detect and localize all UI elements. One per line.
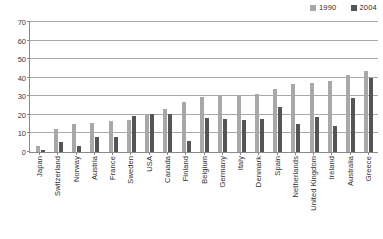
x-axis-labels: JapanSwitzerlandNorwayAustriaFranceSwede… bbox=[30, 156, 377, 236]
bar-2004[interactable] bbox=[223, 119, 227, 152]
x-label-cell: Finland bbox=[176, 156, 194, 236]
bar-1990[interactable] bbox=[237, 95, 241, 152]
x-label-cell: Greece bbox=[359, 156, 377, 236]
x-tick-label: Switzerland bbox=[53, 156, 62, 196]
bar-group bbox=[104, 22, 122, 152]
x-tick-mark bbox=[94, 152, 95, 155]
x-tick-label: Norway bbox=[71, 156, 80, 182]
bar-2004[interactable] bbox=[150, 114, 154, 152]
x-label-cell: France bbox=[103, 156, 121, 236]
x-tick-label: USA bbox=[144, 156, 153, 172]
bar-1990[interactable] bbox=[346, 75, 350, 152]
bar-1990[interactable] bbox=[90, 123, 94, 152]
x-tick-mark bbox=[76, 152, 77, 155]
bar-1990[interactable] bbox=[255, 94, 259, 153]
bar-group bbox=[268, 22, 286, 152]
y-tick-label-20: 20 bbox=[4, 110, 26, 119]
bar-2004[interactable] bbox=[205, 118, 209, 152]
x-label-cell: Sweden bbox=[121, 156, 139, 236]
legend-swatch-2004 bbox=[351, 5, 357, 11]
bar-2004[interactable] bbox=[296, 124, 300, 152]
bar-1990[interactable] bbox=[273, 89, 277, 152]
bar-group bbox=[360, 22, 378, 152]
x-tick-mark bbox=[222, 152, 223, 155]
bar-2004[interactable] bbox=[95, 137, 99, 152]
bar-1990[interactable] bbox=[72, 124, 76, 152]
bar-group bbox=[214, 22, 232, 152]
bar-group bbox=[232, 22, 250, 152]
bar-chart: 1990 2004 010203040506070 JapanSwitzerla… bbox=[0, 0, 383, 239]
x-tick-mark bbox=[39, 152, 40, 155]
x-tick-label: Italy bbox=[236, 156, 245, 170]
x-label-cell: Japan bbox=[30, 156, 48, 236]
x-label-cell: Italy bbox=[231, 156, 249, 236]
bar-groups bbox=[31, 22, 378, 152]
bar-1990[interactable] bbox=[200, 97, 204, 152]
bar-1990[interactable] bbox=[109, 121, 113, 152]
y-tick-mark-60 bbox=[27, 40, 30, 41]
legend-entry-2004[interactable]: 2004 bbox=[351, 3, 378, 12]
bar-2004[interactable] bbox=[369, 78, 373, 152]
bar-group bbox=[342, 22, 360, 152]
bar-1990[interactable] bbox=[163, 109, 167, 152]
bar-2004[interactable] bbox=[333, 126, 337, 152]
bar-group bbox=[159, 22, 177, 152]
x-tick-label: Denmark bbox=[254, 156, 263, 187]
x-tick-label: Sweden bbox=[126, 156, 135, 184]
bar-2004[interactable] bbox=[132, 116, 136, 152]
bar-2004[interactable] bbox=[187, 141, 191, 152]
bar-1990[interactable] bbox=[182, 102, 186, 152]
y-tick-label-50: 50 bbox=[4, 55, 26, 64]
chart-legend: 1990 2004 bbox=[310, 3, 377, 12]
x-tick-mark bbox=[350, 152, 351, 155]
x-tick-mark bbox=[167, 152, 168, 155]
x-label-cell: USA bbox=[140, 156, 158, 236]
x-tick-mark bbox=[277, 152, 278, 155]
legend-label-1990: 1990 bbox=[319, 3, 337, 12]
bar-1990[interactable] bbox=[310, 83, 314, 152]
x-label-cell: Canada bbox=[158, 156, 176, 236]
x-tick-label: Canada bbox=[162, 156, 171, 183]
bar-1990[interactable] bbox=[145, 114, 149, 152]
x-tick-mark bbox=[149, 152, 150, 155]
x-tick-mark bbox=[258, 152, 259, 155]
bar-1990[interactable] bbox=[54, 129, 58, 152]
bar-1990[interactable] bbox=[291, 84, 295, 152]
x-label-cell: United Kingdom bbox=[304, 156, 322, 236]
x-tick-label: France bbox=[108, 156, 117, 180]
x-label-cell: Switzerland bbox=[48, 156, 66, 236]
x-tick-label: Belgium bbox=[199, 156, 208, 184]
bar-group bbox=[287, 22, 305, 152]
bar-1990[interactable] bbox=[364, 71, 368, 152]
bar-2004[interactable] bbox=[168, 114, 172, 152]
bar-2004[interactable] bbox=[351, 98, 355, 152]
y-tick-label-30: 30 bbox=[4, 92, 26, 101]
x-tick-label: Ireland bbox=[327, 156, 336, 180]
bar-2004[interactable] bbox=[315, 117, 319, 152]
bar-2004[interactable] bbox=[77, 146, 81, 152]
x-label-cell: Germany bbox=[213, 156, 231, 236]
x-tick-mark bbox=[130, 152, 131, 155]
x-tick-label: Finland bbox=[181, 156, 190, 181]
legend-entry-1990[interactable]: 1990 bbox=[310, 3, 337, 12]
bar-group bbox=[305, 22, 323, 152]
bar-2004[interactable] bbox=[114, 137, 118, 152]
bar-1990[interactable] bbox=[328, 81, 332, 153]
bar-1990[interactable] bbox=[127, 120, 131, 153]
x-tick-mark bbox=[368, 152, 369, 155]
x-tick-label: Spain bbox=[272, 156, 281, 176]
bar-2004[interactable] bbox=[260, 119, 264, 152]
bar-2004[interactable] bbox=[278, 107, 282, 152]
y-tick-label-0: 0 bbox=[4, 148, 26, 157]
x-tick-label: Japan bbox=[35, 156, 44, 177]
bar-group bbox=[141, 22, 159, 152]
bar-2004[interactable] bbox=[59, 142, 63, 152]
y-tick-mark-70 bbox=[27, 21, 30, 22]
bar-1990[interactable] bbox=[218, 96, 222, 152]
bar-2004[interactable] bbox=[242, 120, 246, 152]
bar-2004[interactable] bbox=[41, 150, 45, 152]
x-tick-mark bbox=[57, 152, 58, 155]
y-tick-mark-30 bbox=[27, 95, 30, 96]
y-axis-labels: 010203040506070 bbox=[0, 22, 26, 153]
bar-group bbox=[86, 22, 104, 152]
